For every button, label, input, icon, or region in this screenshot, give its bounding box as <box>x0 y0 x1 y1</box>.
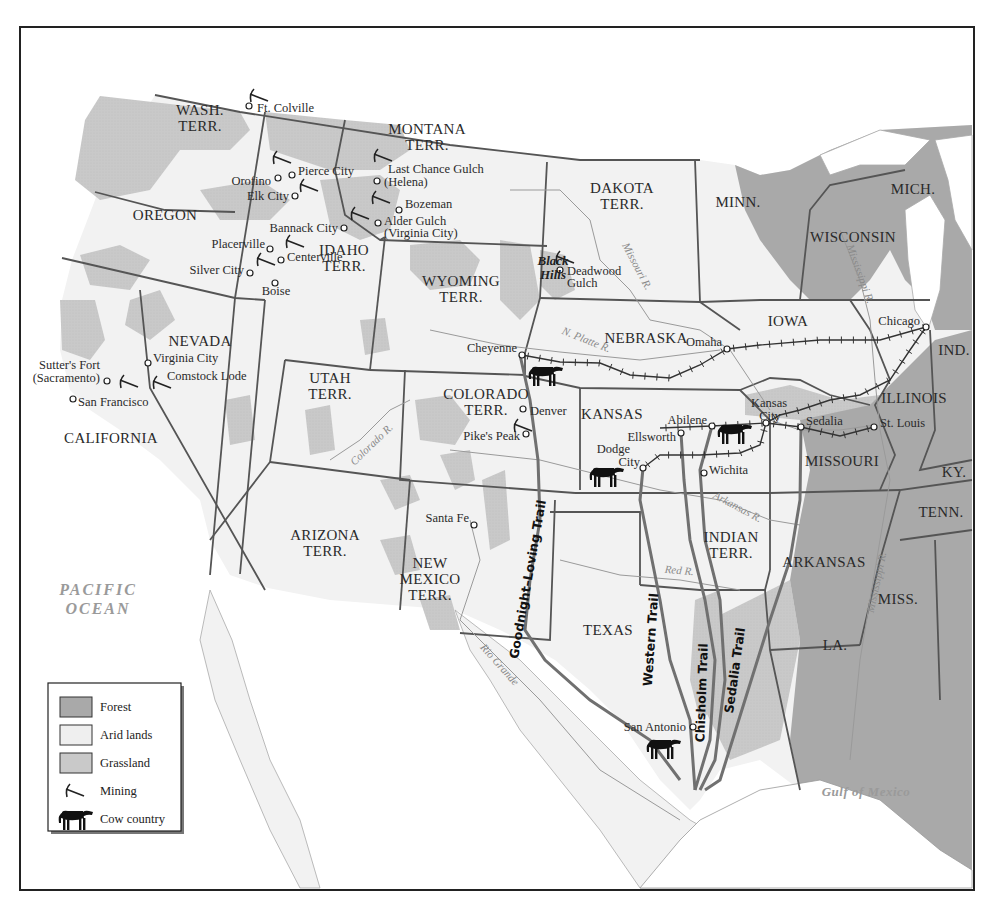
town-st-louis: St. Louis <box>871 416 925 430</box>
svg-text:MISSOURI: MISSOURI <box>805 453 879 469</box>
town-bannack-city: Bannack City <box>270 221 347 235</box>
svg-text:Sutter's Fort: Sutter's Fort <box>39 358 100 372</box>
town-comstock-lode: Comstock Lode <box>167 369 247 383</box>
town-dodge-city-2: City <box>618 455 640 469</box>
state-label-oregon: OREGON <box>133 207 197 223</box>
town-helena: (Helena) <box>384 175 428 189</box>
svg-text:TERR.: TERR. <box>709 545 753 561</box>
state-label-ind: IND. <box>938 342 970 358</box>
town-marker-icon <box>520 406 526 412</box>
town-kansas-city-2: City <box>759 409 781 423</box>
svg-text:LA.: LA. <box>823 637 848 653</box>
town-virginia-city-mt: (Virginia City) <box>384 226 458 240</box>
town-deadwood-gulch-2: Gulch <box>567 276 598 290</box>
svg-text:COLORADO: COLORADO <box>443 386 529 402</box>
svg-text:ARIZONA: ARIZONA <box>290 527 360 543</box>
map: Ft. ColvillePierce CityOrofinoElk CityLa… <box>0 0 994 910</box>
svg-text:(Virginia City): (Virginia City) <box>384 226 458 240</box>
svg-text:ILLINOIS: ILLINOIS <box>881 390 947 406</box>
town-marker-icon <box>247 270 253 276</box>
state-label-wash: WASH.TERR. <box>176 102 224 134</box>
town-bozeman: Bozeman <box>396 197 453 213</box>
svg-text:San Francisco: San Francisco <box>78 395 148 409</box>
svg-text:OREGON: OREGON <box>133 207 197 223</box>
state-label-illinois: ILLINOIS <box>881 390 947 406</box>
svg-text:(Sacramento): (Sacramento) <box>33 371 100 385</box>
svg-text:Cheyenne: Cheyenne <box>467 341 517 355</box>
svg-text:Santa Fe: Santa Fe <box>426 511 470 525</box>
svg-text:PACIFIC: PACIFIC <box>58 581 137 598</box>
svg-text:Chicago: Chicago <box>878 314 920 328</box>
town-marker-icon <box>275 175 281 181</box>
town-marker-icon <box>798 424 804 430</box>
state-label-indian: INDIANTERR. <box>703 529 758 561</box>
state-label-iowa: IOWA <box>768 313 808 329</box>
svg-text:Boise: Boise <box>262 284 291 298</box>
state-label-kansas: KANSAS <box>581 406 643 422</box>
state-label-nevada: NEVADA <box>168 333 231 349</box>
state-label-mich: MICH. <box>891 181 935 197</box>
town-marker-icon <box>523 431 529 437</box>
arid-swatch-icon <box>60 725 92 745</box>
svg-text:City: City <box>759 409 781 423</box>
town-marker-icon <box>341 225 347 231</box>
town-pierce-city: Pierce City <box>289 164 355 178</box>
town-marker-icon <box>375 220 381 226</box>
ocean-label-gulf: Gulf of Mexico <box>822 784 911 799</box>
svg-text:Gulch: Gulch <box>567 276 598 290</box>
svg-text:UTAH: UTAH <box>309 370 351 386</box>
state-label-ky: KY. <box>942 464 966 480</box>
town-marker-icon <box>519 352 525 358</box>
svg-text:Mining: Mining <box>100 784 138 798</box>
town-virginia-city-nv: Virginia City <box>145 351 219 366</box>
town-marker-icon <box>640 465 646 471</box>
town-marker-icon <box>289 172 295 178</box>
state-label-wisconsin: WISCONSIN <box>810 229 896 245</box>
state-label-miss: MISS. <box>878 591 918 607</box>
svg-text:City: City <box>618 455 640 469</box>
town-marker-icon <box>278 257 284 263</box>
svg-text:Virginia City: Virginia City <box>153 351 219 365</box>
svg-text:INDIAN: INDIAN <box>703 529 758 545</box>
region-labels: BlackHills <box>536 253 569 282</box>
svg-text:IDAHO: IDAHO <box>319 242 369 258</box>
svg-text:Abilene: Abilene <box>667 413 707 427</box>
svg-text:TERR.: TERR. <box>303 543 347 559</box>
svg-text:(Helena): (Helena) <box>384 175 428 189</box>
svg-text:Bozeman: Bozeman <box>405 197 453 211</box>
town-marker-icon <box>145 360 151 366</box>
svg-text:Grassland: Grassland <box>100 756 151 770</box>
svg-text:TERR.: TERR. <box>322 258 366 274</box>
town-ellsworth: Ellsworth <box>627 430 684 444</box>
svg-text:WYOMING: WYOMING <box>422 273 500 289</box>
town-placerville: Placerville <box>212 237 273 252</box>
state-label-utah: UTAHTERR. <box>308 370 352 402</box>
svg-text:Ellsworth: Ellsworth <box>627 430 676 444</box>
svg-text:Wichita: Wichita <box>709 463 749 477</box>
town-marker-icon <box>724 346 730 352</box>
state-label-arkansas: ARKANSAS <box>782 554 865 570</box>
svg-text:NEVADA: NEVADA <box>168 333 231 349</box>
town-san-francisco: San Francisco <box>70 395 148 409</box>
svg-text:DAKOTA: DAKOTA <box>590 180 654 196</box>
svg-text:Pierce City: Pierce City <box>298 164 355 178</box>
svg-text:ARKANSAS: ARKANSAS <box>782 554 865 570</box>
grassland-swatch-icon <box>60 753 92 773</box>
svg-text:TERR.: TERR. <box>405 137 449 153</box>
svg-text:St. Louis: St. Louis <box>880 416 925 430</box>
svg-text:Orofino: Orofino <box>231 174 271 188</box>
forest-swatch-icon <box>60 697 92 717</box>
town-wichita: Wichita <box>701 463 749 477</box>
svg-text:Hills: Hills <box>539 267 566 282</box>
svg-text:TERR.: TERR. <box>600 196 644 212</box>
svg-text:TERR.: TERR. <box>408 587 452 603</box>
svg-text:Cow country: Cow country <box>100 812 166 826</box>
svg-text:MISS.: MISS. <box>878 591 918 607</box>
svg-text:Last Chance Gulch: Last Chance Gulch <box>388 162 485 176</box>
town-marker-icon <box>871 424 877 430</box>
svg-text:Forest: Forest <box>100 700 132 714</box>
svg-text:TEXAS: TEXAS <box>583 622 633 638</box>
state-label-texas: TEXAS <box>583 622 633 638</box>
state-label-idaho: IDAHOTERR. <box>319 242 369 274</box>
svg-text:MICH.: MICH. <box>891 181 935 197</box>
